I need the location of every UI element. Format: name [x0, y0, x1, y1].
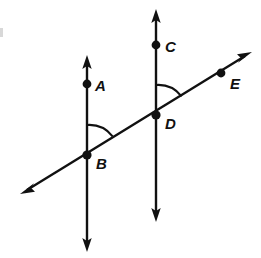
point-dot-a — [83, 80, 92, 89]
transversal-line-segment — [27, 56, 245, 190]
angle-arc-at-D — [156, 85, 182, 96]
point-label-b: B — [96, 155, 107, 172]
point-label-a: A — [94, 77, 106, 94]
point-dot-b — [82, 150, 91, 159]
transversal-lower-left-arrowhead — [20, 183, 35, 194]
point-dot-e — [217, 69, 226, 78]
point-dot-c — [152, 41, 161, 50]
point-dot-d — [151, 110, 160, 119]
geometry-figure: A B C D E — [0, 0, 261, 258]
transversal-upper-right-arrowhead — [237, 52, 252, 63]
geometry-canvas: A B C D E — [0, 0, 261, 258]
point-label-c: C — [165, 38, 177, 55]
point-label-e: E — [230, 75, 241, 92]
angle-arc-at-B — [87, 125, 113, 136]
point-label-d: D — [165, 115, 176, 132]
